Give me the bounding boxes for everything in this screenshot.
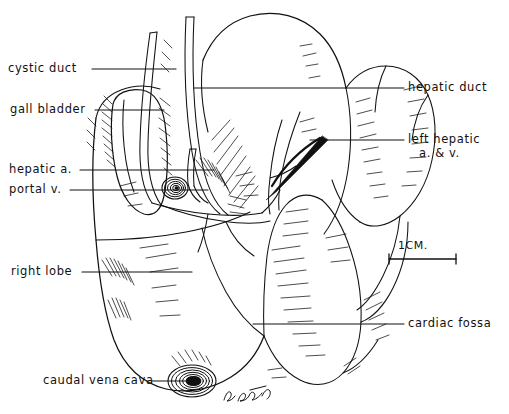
label-hepatic-duct: hepatic duct xyxy=(408,81,487,94)
gall-bladder-outline xyxy=(111,90,167,215)
label-cystic-duct: cystic duct xyxy=(8,62,77,75)
left-hepatic-fissure xyxy=(269,112,301,214)
label-left-hepatic-line1: left hepatic xyxy=(408,133,480,146)
scale-bar xyxy=(389,254,456,264)
central-lower-lobe xyxy=(264,195,362,384)
left-lobe-outline xyxy=(202,13,351,234)
left-hepatic-vessel-stroke xyxy=(272,138,320,186)
label-portal-v: portal v. xyxy=(9,183,61,196)
label-right-lobe: right lobe xyxy=(11,265,72,278)
hepatic-duct-tube xyxy=(185,17,228,215)
label-caudal-vena-cava: caudal vena cava xyxy=(43,374,154,387)
right-lobe-outline xyxy=(93,86,264,391)
leader-lines xyxy=(70,69,404,381)
label-gall-bladder: gall bladder xyxy=(10,103,86,116)
label-cardiac-fossa: cardiac fossa xyxy=(408,317,491,330)
scale-bar-label: 1CM. xyxy=(398,239,428,252)
hatch-shading xyxy=(87,40,428,378)
cystic-duct-tube xyxy=(140,32,161,205)
figure-canvas: cystic duct gall bladder hepatic a. port… xyxy=(0,0,509,414)
label-left-hepatic-line2: a. & v. xyxy=(419,147,460,160)
label-hepatic-a: hepatic a. xyxy=(9,163,72,176)
porta-hepatis-region xyxy=(96,190,280,336)
artist-signature xyxy=(224,386,270,401)
